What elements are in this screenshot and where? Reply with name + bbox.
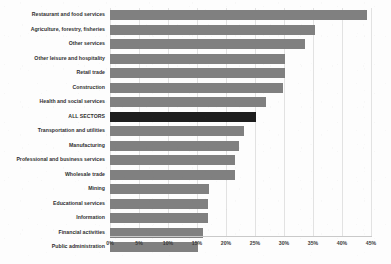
chart-title (0, 0, 391, 5)
x-tick-10%: 10% (163, 240, 173, 246)
bar-row (110, 110, 371, 125)
bar-row (110, 211, 371, 226)
bar-row (110, 153, 371, 168)
category-label-other-services: Other services (0, 40, 105, 46)
bar-row (110, 226, 371, 241)
bar-row (110, 240, 371, 255)
plot-area (110, 8, 371, 236)
category-label-agriculture-forestry-fisheries: Agriculture, forestry, fisheries (0, 26, 105, 32)
category-label-manufacturing: Manufacturing (0, 142, 105, 148)
category-label-transportation-and-utilities: Transportation and utilities (0, 127, 105, 133)
x-tick-15%: 15% (192, 240, 202, 246)
x-tick-20%: 20% (221, 240, 231, 246)
category-label-other-leisure-and-hospitality: Other leisure and hospitality (0, 55, 105, 61)
x-tick-5%: 5% (135, 240, 143, 246)
bar-row (110, 124, 371, 139)
x-tick-30%: 30% (279, 240, 289, 246)
bar-row (110, 81, 371, 96)
bar-public-administration (110, 242, 198, 252)
bar-agriculture-forestry-fisheries (110, 25, 315, 35)
x-axis-line (110, 236, 372, 237)
category-label-construction: Construction (0, 84, 105, 90)
category-label-health-and-social-services: Health and social services (0, 98, 105, 104)
category-label-mining: Mining (0, 185, 105, 191)
category-label-restaurant-and-food-services: Restaurant and food services (0, 11, 105, 17)
bar-row (110, 37, 371, 52)
bar-row (110, 182, 371, 197)
bar-row (110, 8, 371, 23)
bar-educational-services (110, 199, 208, 209)
bar-construction (110, 83, 283, 93)
bar-retail-trade (110, 68, 285, 78)
x-tick-25%: 25% (250, 240, 260, 246)
bar-information (110, 213, 208, 223)
bar-row (110, 197, 371, 212)
bar-restaurant-and-food-services (110, 10, 367, 20)
gridline-45% (371, 8, 372, 236)
x-tick-45%: 45% (366, 240, 376, 246)
bar-manufacturing (110, 141, 239, 151)
bar-professional-and-business-services (110, 155, 235, 165)
bar-row (110, 139, 371, 154)
bar-row (110, 23, 371, 38)
bar-row (110, 66, 371, 81)
horizontal-bar-chart: Restaurant and food servicesAgriculture,… (0, 0, 391, 264)
category-label-professional-and-business-services: Professional and business services (0, 156, 105, 162)
category-label-retail-trade: Retail trade (0, 69, 105, 75)
bar-other-leisure-and-hospitality (110, 54, 285, 64)
bar-transportation-and-utilities (110, 126, 244, 136)
category-label-public-administration: Public administration (0, 243, 105, 249)
category-label-wholesale-trade: Wholesale trade (0, 171, 105, 177)
x-tick-35%: 35% (308, 240, 318, 246)
bar-row (110, 95, 371, 110)
category-label-educational-services: Educational services (0, 200, 105, 206)
bar-health-and-social-services (110, 97, 266, 107)
bar-row (110, 168, 371, 183)
category-label-information: Information (0, 214, 105, 220)
bar-row (110, 52, 371, 67)
bar-wholesale-trade (110, 170, 235, 180)
x-tick-0%: 0% (106, 240, 114, 246)
bar-other-services (110, 39, 305, 49)
bar-all-sectors (110, 112, 256, 122)
bar-mining (110, 184, 209, 194)
category-label-all-sectors: ALL SECTORS (0, 113, 105, 119)
category-label-financial-activities: Financial activities (0, 229, 105, 235)
x-tick-40%: 40% (337, 240, 347, 246)
